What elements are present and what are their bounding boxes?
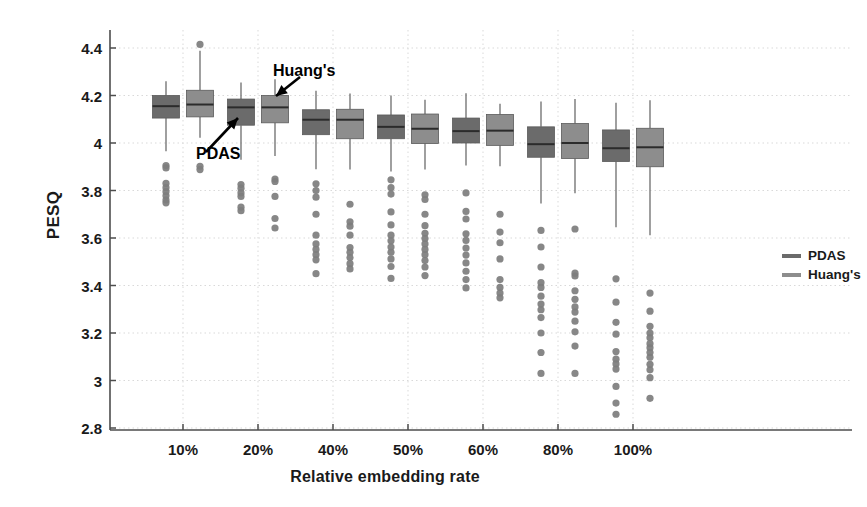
box-whisker (603, 103, 630, 418)
legend-item-huangs: Huang's (782, 265, 861, 284)
x-tick-label: 80% (523, 441, 593, 458)
y-tick-label: 3.2 (58, 325, 102, 342)
y-tick-label: 2.8 (58, 420, 102, 437)
x-tick-label: 40% (298, 441, 368, 458)
legend-label-huangs: Huang's (808, 267, 861, 282)
box-whisker (303, 91, 330, 277)
x-tick-label: 60% (448, 441, 518, 458)
y-axis-label: PESQ (44, 155, 64, 275)
legend-item-pdas: PDAS (782, 246, 861, 265)
legend-label-pdas: PDAS (808, 248, 846, 263)
box-whisker (337, 94, 364, 273)
boxplot-plot-area (0, 0, 867, 507)
box-whisker (412, 100, 439, 279)
annotation-huangs: Huang's (273, 62, 335, 80)
chart-legend: PDAS Huang's (782, 246, 861, 284)
x-tick-label: 50% (373, 441, 443, 458)
y-tick-label: 4 (58, 135, 102, 152)
y-tick-label: 3.4 (58, 277, 102, 294)
box-whisker (262, 79, 289, 231)
x-tick-label: 10% (148, 441, 218, 458)
y-tick-label: 3.8 (58, 182, 102, 199)
box-whisker (487, 104, 514, 302)
x-tick-label: 100% (598, 441, 668, 458)
annotation-pdas: PDAS (196, 145, 240, 163)
x-axis-label: Relative embedding rate (0, 468, 770, 486)
x-tick-label: 20% (223, 441, 293, 458)
box-whisker (378, 96, 405, 282)
box-whisker (528, 101, 555, 377)
boxplot-figure: PESQ Relative embedding rate 4.44.243.83… (0, 0, 867, 507)
box-whisker (453, 93, 480, 291)
y-tick-label: 3.6 (58, 230, 102, 247)
y-tick-label: 3 (58, 372, 102, 389)
y-tick-label: 4.2 (58, 87, 102, 104)
y-tick-label: 4.4 (58, 40, 102, 57)
legend-swatch-pdas (782, 254, 801, 258)
box-whisker (153, 81, 180, 206)
legend-swatch-huangs (782, 273, 801, 277)
box-whisker (637, 100, 664, 402)
